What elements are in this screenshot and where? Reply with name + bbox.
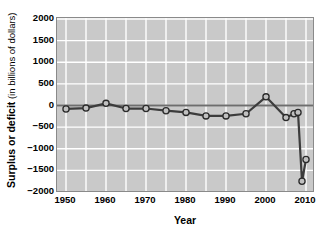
y-tick-label: −500 — [18, 121, 54, 131]
plot-svg — [57, 18, 314, 192]
x-tick-label: 2010 — [294, 195, 315, 205]
x-axis-tick-labels: 1950196019701980199020002010 — [56, 195, 314, 209]
data-point-marker — [143, 105, 149, 111]
data-point-marker — [303, 156, 309, 162]
x-tick-label: 1970 — [134, 195, 155, 205]
y-tick-label: 1500 — [18, 35, 54, 45]
x-tick-label: 1960 — [94, 195, 115, 205]
data-point-marker — [103, 100, 109, 106]
data-point-marker — [283, 115, 289, 121]
y-axis-title-units: (in billions of dollars) — [6, 12, 17, 101]
data-point-marker — [295, 109, 301, 115]
surplus-deficit-line-chart: Surplus or deficit (in billions of dolla… — [0, 0, 328, 238]
x-tick-label: 2000 — [254, 195, 275, 205]
data-point-marker — [163, 108, 169, 114]
y-tick-label: −1000 — [18, 143, 54, 153]
data-point-marker — [243, 111, 249, 117]
y-tick-label: 2000 — [18, 13, 54, 23]
x-axis-title: Year — [56, 214, 314, 226]
x-tick-label: 1990 — [214, 195, 235, 205]
x-tick-label: 1950 — [54, 195, 75, 205]
x-tick-label: 1980 — [174, 195, 195, 205]
y-tick-label: 500 — [18, 78, 54, 88]
y-axis-tick-labels: 2000150010005000−500−1000−1500−2000 — [18, 17, 54, 192]
data-point-marker — [223, 113, 229, 119]
y-tick-label: 0 — [18, 100, 54, 110]
data-point-marker — [123, 105, 129, 111]
y-tick-label: −2000 — [18, 186, 54, 196]
data-point-marker — [63, 106, 69, 112]
data-point-marker — [299, 178, 305, 184]
data-point-marker — [183, 109, 189, 115]
y-tick-label: 1000 — [18, 57, 54, 67]
data-point-marker — [263, 94, 269, 100]
data-point-marker — [203, 113, 209, 119]
plot-area — [56, 17, 314, 192]
y-tick-label: −1500 — [18, 165, 54, 175]
data-point-marker — [83, 105, 89, 111]
y-axis-title-main: Surplus or deficit — [5, 101, 17, 187]
